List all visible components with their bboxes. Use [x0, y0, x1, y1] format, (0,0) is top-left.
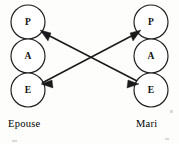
ego-label-right-adulte: A [148, 51, 155, 61]
scan-speck-2 [165, 138, 169, 140]
arrow-head-right-parent-icon [130, 30, 141, 41]
transaction-vectors [42, 32, 139, 83]
transaction-line-right-enfant-to-left-parent [42, 32, 137, 81]
ego-label-left-adulte: A [25, 51, 32, 61]
ego-state-column-right: P A E [134, 5, 168, 107]
party-label-mari: Mari [136, 118, 157, 129]
ego-label-left-parent: P [25, 17, 31, 27]
ego-label-right-enfant: E [148, 85, 154, 95]
transactional-analysis-diagram: P A E P A E Epouse Mari [0, 0, 179, 144]
arrow-head-left-parent-icon [40, 30, 51, 41]
party-label-epouse: Epouse [8, 118, 40, 129]
scan-speck-3 [12, 140, 17, 142]
ego-label-right-parent: P [148, 17, 154, 27]
scan-speck-1 [170, 110, 173, 113]
ego-state-column-left: P A E [11, 5, 45, 107]
ego-label-left-enfant: E [25, 85, 31, 95]
